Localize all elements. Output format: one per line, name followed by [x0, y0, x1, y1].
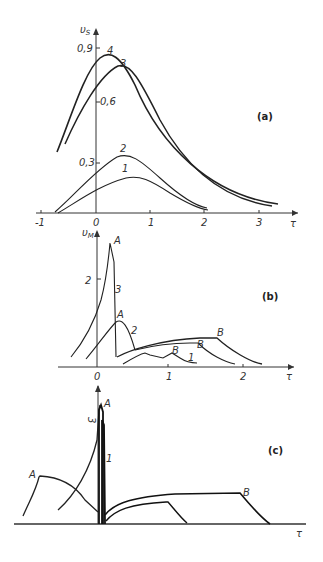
x-axis-arrow-icon	[288, 364, 294, 370]
label-B-low: B	[172, 345, 179, 356]
panel-label-b: (b)	[262, 291, 278, 302]
xtick-b-2: 2	[240, 371, 246, 382]
label-c-3: 3	[86, 417, 97, 423]
x-axis-arrow-icon	[292, 210, 298, 216]
xtick-0: 0	[93, 217, 99, 228]
curve-b-1	[123, 353, 197, 364]
curve-label-4: 4	[107, 45, 113, 56]
curve-a-1	[58, 177, 208, 213]
label-A-low: A	[116, 309, 124, 320]
x-label-b: τ	[286, 371, 293, 382]
curve-label-2: 2	[120, 143, 126, 154]
label-2: 2	[131, 325, 137, 336]
y-axis-arrow-icon	[93, 28, 99, 35]
curve-label-1: 1	[122, 163, 128, 174]
xtick-3: 3	[256, 217, 262, 228]
y-label-a: υS	[80, 24, 91, 37]
xtick-1: 1	[148, 217, 154, 228]
panel-a: υS 0,9 0,6 0,3 -1 0 1 2 3 τ 1 2 3 4 (a)	[35, 24, 298, 229]
x-label-c: τ	[296, 528, 303, 539]
xtick-2: 2	[201, 217, 207, 228]
y-axis-arrow-icon	[94, 230, 100, 237]
label-B-mid: B	[197, 339, 204, 350]
curve-b-2	[71, 243, 116, 357]
label-c-1: 1	[106, 453, 112, 464]
figure: υS 0,9 0,6 0,3 -1 0 1 2 3 τ 1 2 3 4 (a) …	[0, 0, 323, 562]
xtick-b-1: 1	[166, 371, 172, 382]
curve-a-2	[55, 156, 207, 212]
xtick-b-0: 0	[94, 371, 100, 382]
ytick-0-6: 0,6	[100, 96, 116, 107]
label-3: 3	[115, 284, 121, 295]
curve-c-A	[23, 476, 98, 516]
curve-b-3	[86, 321, 135, 359]
ytick-0-9: 0,9	[77, 43, 93, 54]
y-label-b: υM	[82, 227, 94, 240]
panel-label-c: (c)	[268, 445, 283, 456]
curve-label-3: 3	[120, 58, 126, 69]
label-c-A-left: A	[28, 469, 36, 480]
panel-b: υM 2 0 1 2 τ A A 3 2 B B B 1 (b)	[58, 227, 294, 382]
label-A-top: A	[113, 235, 121, 246]
ytick-2: 2	[85, 275, 91, 286]
xtick-m1: -1	[35, 217, 45, 228]
label-B-upper: B	[217, 327, 224, 338]
y-axis-arrow-icon	[95, 385, 101, 392]
x-label-a: τ	[290, 218, 297, 229]
label-1: 1	[188, 352, 194, 363]
curve-a-4	[57, 55, 278, 204]
label-c-B: B	[243, 487, 250, 498]
panel-label-a: (a)	[257, 111, 273, 122]
label-c-A-top: A	[103, 398, 111, 409]
panel-c: A A 3 1 B τ (c)	[14, 385, 306, 539]
ytick-0-3: 0,3	[79, 157, 95, 168]
